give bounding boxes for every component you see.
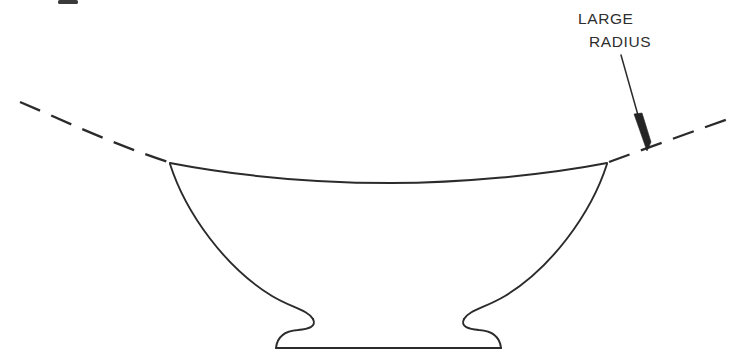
scan-artifact-mark [58, 0, 78, 4]
pedestal-foot-left [276, 319, 314, 348]
callout-label-line-1: LARGE [578, 10, 634, 27]
radius-arc-solid-rim [170, 163, 607, 183]
bowl-large-radius-diagram: LARGE RADIUS [0, 0, 753, 363]
radius-arc-dashed-left [20, 102, 168, 162]
pedestal-foot-right [463, 319, 501, 348]
radius-arc-dashed-right [609, 118, 731, 162]
callout-label-line-2: RADIUS [589, 33, 651, 50]
bowl-right-wall [464, 164, 607, 319]
bowl-left-wall [170, 164, 313, 319]
callout-arrowhead-icon [634, 113, 651, 151]
diagram-canvas: LARGE RADIUS [0, 0, 753, 363]
